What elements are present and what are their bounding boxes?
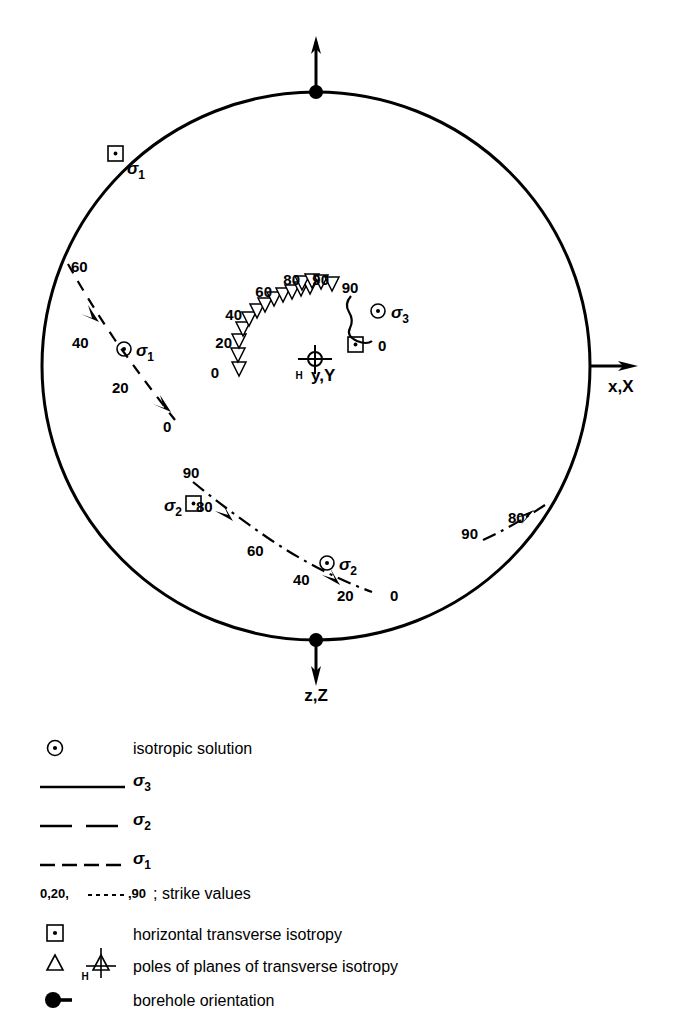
legend-row-isotropic-solution: isotropic solution bbox=[48, 740, 253, 757]
sigma2-strike-90: 90 bbox=[183, 464, 200, 481]
sigma2-strike-60: 60 bbox=[247, 542, 264, 559]
sigma3-strike-0: 0 bbox=[378, 337, 386, 354]
sigma2-strike-20: 20 bbox=[337, 587, 354, 604]
legend-row-sigma-2: σ2 bbox=[40, 810, 151, 833]
stereonet-figure: z,Z x,X H y,Y σ1 60 40 20 0 σ1 bbox=[0, 0, 673, 1020]
sigma2-strike-0: 0 bbox=[390, 587, 398, 604]
sigma2-isotropic-marker bbox=[320, 556, 334, 570]
filled-dot-tail-icon bbox=[45, 992, 72, 1008]
legend-row-sigma-3: σ3 bbox=[40, 771, 151, 794]
sigma1-strike-20: 20 bbox=[112, 379, 129, 396]
borehole-marker-top bbox=[309, 36, 323, 99]
sigma2-strike-40: 40 bbox=[293, 571, 310, 588]
x-axis-label: x,X bbox=[608, 377, 634, 396]
sigma2-curve bbox=[193, 482, 372, 592]
y-axis-subscript-h: H bbox=[295, 370, 302, 381]
legend-label-poles-of-planes: poles of planes of transverse isotropy bbox=[133, 958, 398, 975]
sigma1-strike-60: 60 bbox=[71, 258, 88, 275]
z-axis-label: z,Z bbox=[304, 686, 328, 705]
crosshair-subscript-h: H bbox=[81, 971, 88, 982]
legend-strike-mid: ,90 bbox=[128, 886, 146, 901]
poles-strike-40: 40 bbox=[225, 306, 242, 323]
legend-row-sigma-1: σ1 bbox=[40, 849, 151, 872]
sigma1-strike-0: 0 bbox=[163, 418, 171, 435]
sigma2-square-label: σ2 bbox=[164, 496, 182, 519]
z-axis-marker bbox=[309, 633, 323, 686]
poles-strike-90: 90 bbox=[312, 271, 329, 288]
legend-label-sigma-2: σ2 bbox=[133, 810, 151, 833]
sigma3-strike-90: 90 bbox=[342, 279, 359, 296]
legend-label-isotropic-solution: isotropic solution bbox=[133, 740, 252, 757]
y-axis-label: y,Y bbox=[311, 366, 336, 385]
legend-row-borehole-orientation: borehole orientation bbox=[45, 992, 274, 1009]
poles-strike-20: 20 bbox=[215, 334, 232, 351]
figure-canvas: z,Z x,X H y,Y σ1 60 40 20 0 σ1 bbox=[0, 0, 673, 1020]
sigma1-square-label: σ1 bbox=[127, 159, 145, 182]
sigma2-right-strike-80: 80 bbox=[508, 509, 525, 526]
sigma1-isotropic-label: σ1 bbox=[136, 341, 154, 364]
sigma1-strike-40: 40 bbox=[72, 334, 89, 351]
legend-label-sigma-3: σ3 bbox=[133, 771, 151, 794]
sigma3-isotropic-label: σ3 bbox=[391, 303, 409, 326]
crosshair-triangle-icon bbox=[86, 948, 116, 978]
square-dot-icon bbox=[47, 925, 63, 941]
triangle-icon bbox=[47, 955, 63, 970]
sigma2-isotropic-label: σ2 bbox=[339, 555, 357, 578]
sigma2-curve-arrow-2 bbox=[322, 568, 340, 585]
legend-label-sigma-1: σ1 bbox=[133, 849, 151, 872]
sigma2-strike-80: 80 bbox=[196, 498, 213, 515]
circle-dot-icon bbox=[48, 741, 63, 756]
x-axis-marker bbox=[590, 361, 638, 371]
legend-label-borehole-orientation: borehole orientation bbox=[133, 992, 274, 1009]
legend-row-strike-values: 0,20, ,90 ; strike values bbox=[40, 885, 251, 902]
legend-row-horizontal-transverse-isotropy: horizontal transverse isotropy bbox=[47, 925, 342, 943]
legend-label-horizontal-transverse-isotropy: horizontal transverse isotropy bbox=[133, 926, 342, 943]
legend-row-poles-of-planes: H poles of planes of transverse isotropy bbox=[47, 948, 398, 982]
sigma1-curve-arrow bbox=[81, 305, 99, 322]
sigma2-right-strike-90: 90 bbox=[461, 525, 478, 542]
poles-strike-0: 0 bbox=[211, 364, 219, 381]
poles-strike-60: 60 bbox=[255, 283, 272, 300]
sigma3-isotropic-marker bbox=[371, 304, 385, 318]
sigma3-curve bbox=[347, 296, 372, 343]
poles-strike-80: 80 bbox=[283, 271, 300, 288]
legend-label-strike-values: ; strike values bbox=[153, 885, 251, 902]
sigma1-square-marker bbox=[108, 146, 123, 161]
legend-strike-prefix: 0,20, bbox=[40, 886, 69, 901]
